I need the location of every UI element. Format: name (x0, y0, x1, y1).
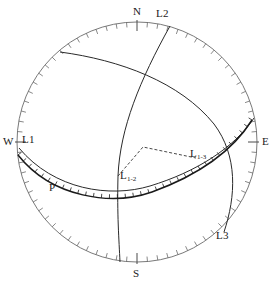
label-intersection-l1-2: L1-2 (120, 170, 136, 181)
rim-tick (33, 82, 37, 85)
rim-tick-group (17, 22, 256, 261)
rim-tick (21, 172, 26, 173)
rim-tick (186, 246, 188, 251)
rim-tick (211, 50, 214, 54)
label-intersection-l1-3-subscript: 1-3 (197, 153, 206, 161)
label-intersection-l1-3: L1-3 (190, 148, 206, 159)
rim-tick (237, 200, 241, 203)
rim-tick (21, 111, 26, 112)
rim-tick (116, 24, 117, 29)
rim-tick (157, 24, 158, 29)
p-plane-hatch (35, 169, 38, 172)
rim-tick (33, 200, 37, 203)
rim-tick (68, 236, 71, 240)
rim-tick (96, 29, 98, 34)
p-plane-hatch (55, 181, 57, 185)
p-plane-hatch (249, 118, 252, 120)
rim-tick (248, 111, 253, 112)
rim-tick (186, 33, 188, 38)
p-plane-hatch (155, 187, 156, 191)
rim-tick (167, 253, 168, 258)
label-intersection-l1-2-subscript: 1-2 (127, 175, 136, 183)
rim-tick (203, 236, 206, 240)
rim-tick (28, 191, 33, 193)
label-plane-p: P (49, 182, 55, 193)
great-circle-l3-plane (60, 52, 233, 232)
p-plane-hatch (163, 184, 165, 188)
p-plane-hatch (140, 191, 141, 195)
rim-tick (45, 65, 49, 68)
rim-tick (52, 223, 56, 227)
rim-tick (195, 38, 198, 42)
rim-tick (176, 250, 178, 255)
rim-tick (157, 255, 158, 260)
rim-tick (245, 101, 250, 103)
rim-tick (24, 181, 29, 183)
label-west: W (3, 136, 14, 147)
rim-tick (231, 73, 235, 76)
p-plane-hatch (191, 170, 193, 173)
rim-tick (241, 91, 246, 93)
stereonet-figure: N S E W L1 L2 L3 P L1-2 L1-3 (0, 0, 277, 286)
p-plane-hatch (184, 174, 186, 178)
cardinal-tick-group (15, 20, 259, 264)
stereonet-canvas (0, 0, 277, 286)
rim-tick (231, 208, 235, 211)
label-lineation-l1: L1 (22, 134, 35, 145)
p-plane-hatch (177, 177, 179, 181)
p-plane-hatch (70, 187, 71, 191)
rim-tick (52, 57, 56, 61)
p-plane-hatch (78, 190, 79, 194)
label-south: S (133, 268, 139, 279)
label-lineation-l3: L3 (216, 230, 229, 241)
rim-tick (248, 172, 253, 173)
rim-tick (19, 162, 24, 163)
rim-tick (106, 253, 107, 258)
rim-tick (250, 162, 255, 163)
rim-tick (176, 29, 178, 34)
rim-tick (77, 242, 80, 246)
p-plane-hatch (23, 158, 26, 161)
rim-tick (77, 38, 80, 42)
rim-tick (68, 44, 71, 48)
rim-tick (211, 230, 214, 234)
rim-tick (96, 250, 98, 255)
rim-tick (116, 255, 117, 260)
rim-tick (24, 101, 29, 103)
great-circle-l2-plane (118, 26, 170, 262)
label-east: E (262, 136, 269, 147)
rim-tick (237, 82, 241, 85)
rim-tick (45, 216, 49, 219)
p-plane-hatch (240, 131, 243, 134)
p-plane-hatch (29, 164, 32, 167)
rim-tick (245, 181, 250, 183)
rim-tick (28, 91, 33, 93)
rim-tick (218, 57, 222, 61)
label-north: N (133, 6, 141, 17)
rim-tick (39, 73, 43, 76)
rim-tick (86, 246, 88, 251)
p-plane-hatch (198, 166, 200, 169)
label-lineation-l2: L2 (156, 8, 169, 19)
rim-tick (195, 242, 198, 246)
label-intersection-l1-2-base: L (120, 169, 127, 181)
rim-tick (203, 44, 206, 48)
p-plane-hatch (133, 193, 134, 197)
rim-tick (86, 33, 88, 38)
p-plane-hatch (170, 180, 172, 184)
rim-tick (106, 26, 107, 31)
rim-tick (241, 191, 246, 193)
label-intersection-l1-3-base: L (190, 147, 197, 159)
rim-tick (39, 208, 43, 211)
rim-tick (60, 230, 63, 234)
p-plane-hatch (244, 124, 247, 126)
rim-tick (218, 223, 222, 227)
p-plane-hatch (18, 153, 21, 155)
rim-tick (225, 65, 229, 68)
rim-tick (19, 121, 24, 122)
p-plane-hatch (41, 174, 43, 177)
p-plane-hatch (63, 185, 65, 189)
